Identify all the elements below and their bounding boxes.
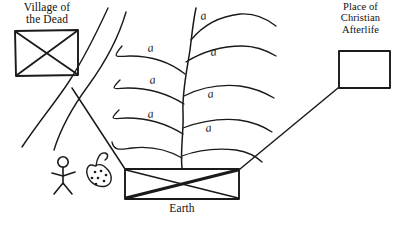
plant-branch-left-4 xyxy=(112,142,182,158)
afterlife-box-outline xyxy=(339,51,390,88)
diagram-canvas: a a a a a a a Village of t xyxy=(0,0,393,226)
seed-dot xyxy=(91,177,94,180)
plant-branch-right-3 xyxy=(184,85,274,98)
plant-stem xyxy=(181,8,196,168)
label-village-of-the-dead: Village of the Dead xyxy=(4,1,90,26)
seed-bag-body xyxy=(87,165,111,187)
river-line-2 xyxy=(54,12,126,150)
plant-glyph-a-7: a xyxy=(204,120,212,135)
plant-branch-right-4 xyxy=(183,119,272,132)
node-place-of-christian-afterlife[interactable] xyxy=(339,51,390,88)
plant-glyph-a-4: a xyxy=(148,72,156,87)
motif-plant: a a a a a a a xyxy=(112,8,276,168)
seed-dot xyxy=(95,183,98,186)
plant-glyph-a-6: a xyxy=(146,106,154,121)
node-village-of-the-dead[interactable] xyxy=(15,30,78,76)
person-head xyxy=(58,157,68,167)
seed-dot xyxy=(100,170,103,173)
plant-glyph-a-1: a xyxy=(199,8,207,23)
seed-dot xyxy=(94,171,97,174)
node-earth[interactable] xyxy=(125,169,239,199)
seed-dot xyxy=(97,177,100,180)
motif-stick-figure-person xyxy=(52,157,75,194)
plant-glyph-a-3: a xyxy=(209,44,217,59)
seed-dot xyxy=(105,174,108,177)
seed-dot xyxy=(103,180,106,183)
label-place-of-christian-afterlife: Place of Christian Afterlife xyxy=(328,1,393,35)
plant-glyph-a-5: a xyxy=(206,86,214,101)
label-earth: Earth xyxy=(142,202,222,214)
plant-branch-right-2 xyxy=(186,46,276,62)
motif-seed-bag xyxy=(87,153,111,187)
plant-glyph-a-2: a xyxy=(146,40,154,55)
river-line-1 xyxy=(22,8,108,147)
